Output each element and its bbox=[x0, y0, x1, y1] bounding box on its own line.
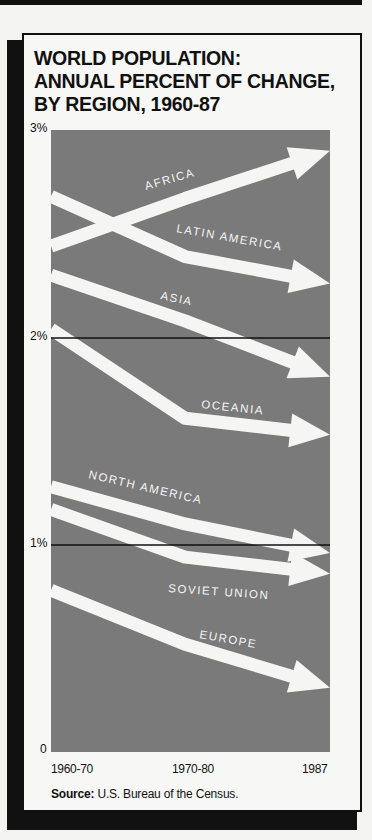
plot-area bbox=[51, 130, 330, 752]
chart-plot: AFRICALATIN AMERICAASIAOCEANIANORTH AMER… bbox=[0, 0, 372, 840]
source-note: Source: U.S. Bureau of the Census. bbox=[51, 787, 238, 801]
x-tick-1987: 1987 bbox=[302, 762, 328, 776]
source-text: U.S. Bureau of the Census. bbox=[97, 787, 238, 801]
x-tick-1970-80: 1970-80 bbox=[172, 762, 214, 776]
x-tick-1960-70: 1960-70 bbox=[51, 762, 93, 776]
source-label: Source: bbox=[51, 787, 94, 801]
